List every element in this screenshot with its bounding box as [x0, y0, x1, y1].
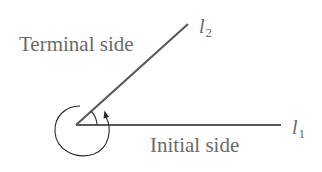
rotation-arrowhead-icon — [104, 111, 110, 119]
terminal-ray-label: l2 — [199, 15, 212, 40]
angle-arc — [91, 111, 97, 125]
terminal-side-label: Terminal side — [19, 32, 134, 56]
initial-ray-subscript: 1 — [299, 126, 306, 141]
rotation-loop-icon — [55, 106, 109, 156]
angle-diagram: Terminal side Initial side l2 l1 — [0, 0, 322, 172]
terminal-ray-name: l — [199, 15, 205, 37]
initial-ray-name: l — [292, 116, 298, 138]
initial-side-label: Initial side — [150, 133, 239, 157]
initial-ray-label: l1 — [292, 116, 305, 141]
terminal-ray-subscript: 2 — [206, 25, 213, 40]
